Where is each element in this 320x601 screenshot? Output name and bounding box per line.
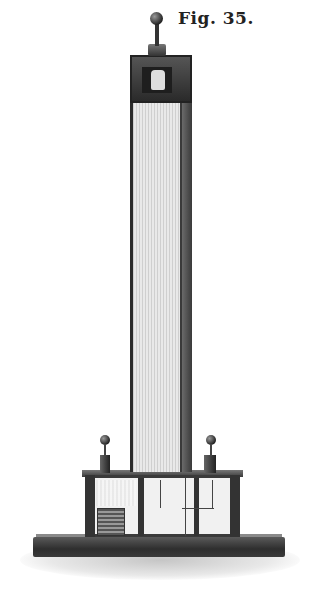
terminal-post-right [204, 455, 216, 473]
wire [185, 478, 186, 536]
apparatus-base [33, 537, 285, 557]
cabinet-post-right [230, 475, 240, 537]
glass-panel [96, 480, 136, 506]
head-figure [151, 70, 165, 90]
cabinet-post-left [85, 475, 95, 537]
cabinet-post-inner [138, 478, 144, 536]
top-rod [155, 22, 159, 46]
battery-jar [97, 508, 125, 536]
cabinet-post-inner-2 [194, 478, 199, 536]
figure-caption: Fig. 35. [178, 8, 254, 28]
wire [182, 508, 214, 509]
terminal-rod-right [210, 444, 212, 456]
column-front [130, 100, 182, 472]
wire [160, 480, 161, 508]
top-knob [150, 12, 163, 25]
wire [212, 480, 213, 508]
terminal-rod-left [104, 444, 106, 456]
terminal-post-left [100, 455, 110, 473]
column-side [182, 100, 192, 472]
